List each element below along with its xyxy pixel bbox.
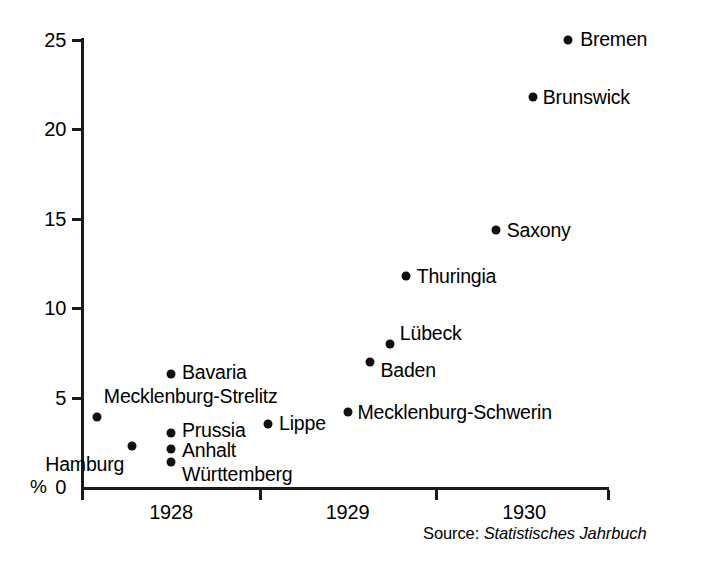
data-point: [385, 339, 394, 348]
data-point-label: Lübeck: [400, 324, 462, 344]
data-point-label: Bremen: [580, 30, 647, 50]
x-axis-tick: [81, 478, 84, 500]
data-point-label: Thuringia: [417, 267, 497, 287]
source-prefix: Source:: [423, 524, 479, 542]
source-note: Source: Statistisches Jahrbuch: [423, 524, 647, 542]
y-axis-tick: [72, 39, 81, 42]
y-axis-tick: [72, 397, 81, 400]
y-axis-tick-label: 20: [0, 119, 66, 139]
y-axis-tick-label: 5: [0, 388, 66, 408]
data-point-label: Hamburg: [45, 455, 124, 475]
data-point-label: Baden: [380, 361, 435, 381]
y-axis-tick-label: 15: [0, 209, 66, 229]
x-axis-tick: [435, 490, 438, 500]
data-point-label: Brunswick: [543, 88, 630, 108]
data-point: [167, 370, 176, 379]
source-title: Statistisches Jahrbuch: [484, 524, 647, 542]
data-point: [167, 445, 176, 454]
data-point-label: Prussia: [182, 422, 246, 442]
x-axis-tick-label: 1929: [326, 502, 370, 522]
y-axis-tick-label: 10: [0, 298, 66, 318]
x-axis-tick-label: 1928: [149, 502, 193, 522]
y-axis-tick-label: 0: [0, 477, 66, 497]
data-point-label: Mecklenburg-Strelitz: [104, 388, 278, 408]
data-point-label: Württemberg: [182, 465, 293, 485]
x-axis-line: [81, 487, 609, 490]
data-point-label: Saxony: [507, 221, 571, 241]
y-axis-tick: [72, 307, 81, 310]
y-axis-tick-label: 25: [0, 30, 66, 50]
y-axis-line: [81, 38, 84, 489]
y-axis-tick: [72, 218, 81, 221]
data-point: [92, 413, 101, 422]
x-axis-tick-label: 1930: [502, 502, 546, 522]
data-point: [366, 357, 375, 366]
data-point: [264, 420, 273, 429]
data-point-label: Bavaria: [182, 364, 247, 384]
data-point: [128, 441, 137, 450]
x-axis-tick: [607, 490, 610, 500]
data-point: [401, 272, 410, 281]
x-axis-tick: [259, 490, 262, 500]
data-point-label: Lippe: [279, 415, 326, 435]
data-point: [167, 457, 176, 466]
data-point: [167, 429, 176, 438]
data-point: [343, 407, 352, 416]
data-point-label: Anhalt: [182, 442, 236, 462]
scatter-chart: % 2520151050 192819291930 BremenBrunswic…: [0, 0, 708, 578]
data-point: [491, 225, 500, 234]
data-point: [564, 36, 573, 45]
data-point-label: Mecklenburg-Schwerin: [358, 403, 552, 423]
data-point: [528, 93, 537, 102]
y-axis-tick: [72, 128, 81, 131]
